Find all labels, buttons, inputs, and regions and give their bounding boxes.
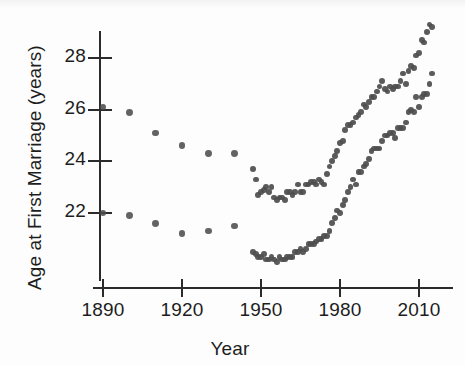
data-point [152, 220, 159, 227]
data-point [269, 184, 275, 190]
data-point [332, 153, 338, 159]
y-axis-tick [88, 57, 112, 59]
y-axis-spine [99, 31, 101, 281]
data-point [250, 166, 256, 172]
data-point [231, 150, 238, 157]
data-point [424, 29, 430, 35]
data-point [179, 230, 186, 237]
data-point [126, 109, 133, 116]
data-point [205, 150, 212, 157]
data-point [337, 210, 343, 216]
data-point [231, 223, 238, 230]
data-point [327, 164, 333, 170]
data-point [363, 161, 369, 167]
data-point [358, 169, 364, 175]
data-point [416, 104, 422, 110]
data-point [152, 130, 159, 137]
data-point [334, 148, 340, 154]
data-point [416, 50, 422, 56]
data-point [363, 104, 369, 110]
data-point [371, 94, 377, 100]
data-point [329, 158, 335, 164]
x-axis-title: Year [160, 338, 300, 360]
data-point [321, 182, 327, 188]
data-point [366, 99, 372, 105]
data-point [324, 171, 330, 177]
data-point [295, 182, 301, 188]
x-axis-tick [339, 279, 341, 297]
data-point [411, 65, 417, 71]
x-axis-tick-label: 1980 [300, 299, 380, 321]
data-point [366, 156, 372, 162]
data-point [253, 177, 259, 183]
data-point [411, 109, 417, 115]
data-point [429, 71, 435, 77]
x-axis-tick-label: 1890 [63, 299, 143, 321]
data-point [303, 246, 309, 252]
x-axis-tick [102, 279, 104, 297]
data-point [429, 24, 435, 30]
data-point [421, 40, 427, 46]
data-point [300, 189, 306, 195]
data-point [358, 109, 364, 115]
y-axis-title: Age at First Marriage (years) [24, 45, 46, 290]
x-axis-tick-label: 1950 [221, 299, 301, 321]
x-axis-tick [260, 279, 262, 297]
y-axis-tick [88, 160, 112, 162]
data-point [290, 254, 296, 260]
data-point [377, 146, 383, 152]
data-point [342, 197, 348, 203]
data-point [340, 202, 346, 208]
data-point [353, 182, 359, 188]
data-point [395, 84, 401, 90]
scatter-plot-area: 2224262818901920195019802010 [0, 0, 465, 365]
x-axis-tick-label: 1920 [142, 299, 222, 321]
x-axis-tick [418, 279, 420, 297]
data-point [374, 89, 380, 95]
data-point [282, 197, 288, 203]
data-point [379, 138, 385, 144]
data-point [427, 81, 433, 87]
data-point [329, 220, 335, 226]
x-axis-tick-label: 2010 [379, 299, 459, 321]
data-point [345, 189, 351, 195]
data-point [266, 189, 272, 195]
data-point [100, 210, 107, 217]
data-point [392, 135, 398, 141]
data-point [126, 212, 133, 219]
x-axis-tick [181, 279, 183, 297]
data-point [324, 233, 330, 239]
data-point [179, 142, 186, 149]
data-point [379, 78, 385, 84]
data-point [403, 81, 409, 87]
x-axis-spine [93, 287, 453, 289]
data-point [205, 228, 212, 235]
data-point [403, 120, 409, 126]
data-point [424, 91, 430, 97]
data-point [327, 228, 333, 234]
data-point [400, 125, 406, 131]
data-point [350, 120, 356, 126]
data-point [332, 215, 338, 221]
data-point [342, 127, 348, 133]
chart-figure: 2224262818901920195019802010 Age at Firs… [0, 0, 465, 365]
data-point [340, 138, 346, 144]
